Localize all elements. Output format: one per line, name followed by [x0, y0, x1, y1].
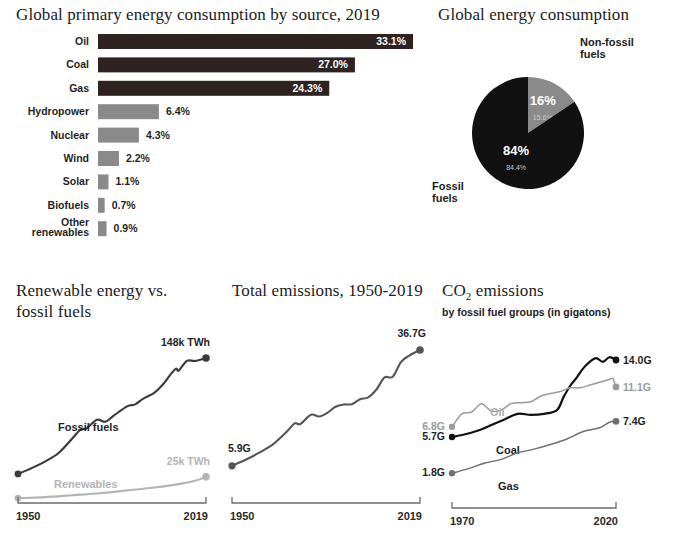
bar-chart-svg: Oil33.1%Coal27.0%Gas24.3%Hydropower6.4%N… — [0, 26, 420, 246]
bar-category-label: Oil — [75, 35, 89, 47]
pie-slice-percent: 16% — [530, 93, 556, 108]
axis-line — [452, 502, 616, 508]
bar-category-label: Coal — [66, 58, 89, 70]
bar-value-label: 0.9% — [114, 222, 139, 234]
series-name-label: Fossil fuels — [58, 421, 119, 433]
bar-value-label: 24.3% — [292, 82, 322, 94]
series-end-label: 7.4G — [623, 415, 646, 427]
bar — [98, 57, 355, 72]
bar-category-label: renewables — [32, 226, 89, 238]
series-line — [452, 378, 616, 427]
series-start-label: 5.7G — [422, 430, 445, 442]
bar-category-label: Hydropower — [28, 105, 89, 117]
series-end-point — [613, 418, 620, 425]
renew-title-line1: Renewable energy vs. — [16, 281, 167, 300]
series-start-point — [449, 434, 455, 440]
bar — [98, 151, 119, 166]
bar-category-label: Biofuels — [48, 199, 90, 211]
bar-row: Wind2.2% — [63, 151, 150, 166]
global-energy-consumption-panel: Global energy consumption 16%15.6%84%84.… — [420, 0, 682, 252]
bar-value-label: 1.1% — [115, 175, 140, 187]
bar-value-label: 4.3% — [146, 129, 171, 141]
co2-chart-subtitle: by fossil fuel groups (in gigatons) — [434, 306, 682, 318]
bar-category-label: Solar — [63, 175, 89, 187]
pie-label-fossil: Fossil — [432, 180, 464, 192]
renewables-vs-fossil-panel: Renewable energy vs. fossil fuels 148k T… — [0, 280, 228, 542]
emissions-chart-svg: 5.9G36.7G19502019 — [222, 328, 434, 540]
co2-by-group-panel: CO2 emissions by fossil fuel groups (in … — [434, 280, 682, 542]
pie-label-nonfossil: fuels — [580, 48, 606, 60]
x-tick-label: 1950 — [230, 510, 254, 522]
pie-label-nonfossil: Non-fossil — [580, 36, 634, 48]
line-series: 5.9G36.7G — [228, 327, 426, 469]
bar-row: Otherrenewables0.9% — [32, 216, 138, 238]
series-end-point — [202, 473, 210, 481]
series-end-label: 25k TWh — [167, 455, 210, 467]
co2-chart-svg: 5.7G14.0GCoal6.8G11.1GOil1.8G7.4GGas1970… — [434, 338, 682, 538]
bar — [98, 104, 159, 119]
emissions-chart-title: Total emissions, 1950-2019 — [222, 280, 434, 301]
bar — [98, 198, 105, 213]
series-name-label: Coal — [496, 444, 520, 456]
bar — [98, 221, 107, 236]
renew-chart-title: Renewable energy vs. fossil fuels — [0, 280, 228, 323]
series-line — [452, 421, 616, 473]
bar — [98, 34, 413, 49]
bar-value-label: 0.7% — [112, 199, 137, 211]
series-name-label: Oil — [490, 406, 505, 418]
x-tick-label: 2019 — [398, 510, 422, 522]
series-end-point — [613, 384, 620, 391]
x-tick-label: 1970 — [450, 515, 474, 527]
series-line — [452, 357, 616, 437]
bar-chart-title: Global primary energy consumption by sou… — [0, 0, 420, 25]
series-end-label: 11.1G — [623, 381, 651, 393]
series-line — [232, 350, 420, 466]
line-series: 1.8G7.4GGas — [422, 415, 646, 492]
series-start-label: 5.9G — [228, 442, 251, 454]
co2-title-rest: emissions — [471, 281, 543, 300]
series-end-label: 148k TWh — [161, 336, 210, 348]
pie-slice-percent: 84% — [503, 143, 529, 158]
bar-row: Gas24.3% — [69, 81, 329, 96]
series-name-label: Renewables — [54, 478, 118, 490]
series-end-point — [202, 354, 210, 362]
x-tick-label: 2020 — [594, 515, 618, 527]
x-tick-label: 2019 — [184, 510, 208, 522]
co2-chart-title: CO2 emissions — [434, 280, 682, 304]
x-tick-label: 1950 — [16, 510, 40, 522]
renew-title-line2: fossil fuels — [16, 302, 91, 321]
bar-value-label: 2.2% — [126, 152, 151, 164]
line-series: 5.7G14.0GCoal — [422, 354, 651, 456]
pie-slice-exact-percent: 84.4% — [506, 164, 526, 171]
pie-label-fossil: fuels — [432, 192, 458, 204]
bar — [98, 128, 139, 143]
bar-row: Biofuels0.7% — [48, 198, 137, 213]
total-emissions-panel: Total emissions, 1950-2019 5.9G36.7G1950… — [222, 280, 434, 542]
pie-chart-title: Global energy consumption — [420, 0, 682, 25]
x-axis: 19702020 — [450, 502, 618, 527]
bar-row: Oil33.1% — [75, 34, 413, 49]
bar-category-label: Nuclear — [50, 129, 89, 141]
pie-chart-svg: 16%15.6%84%84.4%Non-fossilfuelsFossilfue… — [420, 24, 682, 244]
renew-chart-svg: 148k TWhFossil fuels25k TWhRenewables195… — [0, 328, 228, 540]
bar-value-label: 6.4% — [166, 105, 191, 117]
series-start-point — [228, 462, 235, 469]
bar-category-label: Wind — [63, 152, 89, 164]
series-end-label: 36.7G — [397, 327, 426, 339]
series-end-label: 14.0G — [623, 354, 652, 366]
bar-row: Solar1.1% — [63, 174, 140, 189]
x-axis: 19502019 — [16, 497, 208, 522]
bar-row: Nuclear4.3% — [50, 128, 170, 143]
bar-row: Coal27.0% — [66, 57, 355, 72]
series-name-label: Gas — [498, 480, 519, 492]
series-start-label: 1.8G — [422, 466, 445, 478]
x-axis: 19502019 — [230, 497, 422, 522]
bar-category-label: Gas — [69, 82, 89, 94]
co2-title-main: CO — [442, 281, 466, 300]
bar-value-label: 27.0% — [318, 58, 348, 70]
series-start-label: 6.8G — [422, 420, 445, 432]
series-end-point — [416, 346, 424, 354]
series-start-point — [449, 424, 455, 430]
bar-row: Hydropower6.4% — [28, 104, 191, 119]
energy-by-source-panel: Global primary energy consumption by sou… — [0, 0, 420, 252]
